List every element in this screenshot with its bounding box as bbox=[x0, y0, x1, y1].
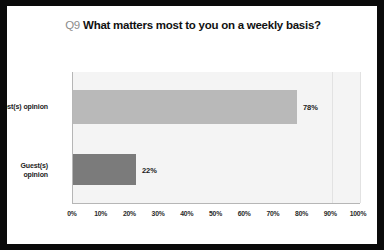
x-tick-80: 80% bbox=[295, 210, 308, 217]
bar-chart: 78% Host(s) opinion 22% Guest(s) opinion… bbox=[7, 64, 377, 244]
x-tick-90: 90% bbox=[324, 210, 337, 217]
question-text: What matters most to you on a weekly bas… bbox=[83, 19, 321, 31]
category-label-guest-opinion: Guest(s) opinion bbox=[7, 162, 48, 179]
x-axis: 0% 10% 20% 30% 40% 50% 60% 70% 80% 90% 1… bbox=[72, 210, 360, 224]
category-label-host-opinion: Host(s) opinion bbox=[7, 103, 48, 112]
gridline-100 bbox=[360, 72, 361, 203]
chart-title: Q9 What matters most to you on a weekly … bbox=[37, 17, 349, 32]
x-tick-60: 60% bbox=[238, 210, 251, 217]
question-number: Q9 bbox=[65, 19, 80, 31]
bar-guest-opinion bbox=[73, 154, 136, 185]
x-tick-20: 20% bbox=[123, 210, 136, 217]
bar-value-host-opinion: 78% bbox=[303, 103, 318, 112]
category-label-host-opinion-line1: Host(s) opinion bbox=[7, 103, 48, 110]
x-tick-100: 100% bbox=[350, 210, 367, 217]
x-tick-30: 30% bbox=[152, 210, 165, 217]
x-tick-10: 10% bbox=[94, 210, 107, 217]
x-tick-0: 0% bbox=[67, 210, 76, 217]
bar-value-guest-opinion: 22% bbox=[142, 166, 157, 175]
slide-canvas: Q9 What matters most to you on a weekly … bbox=[7, 6, 377, 244]
x-tick-40: 40% bbox=[180, 210, 193, 217]
category-label-guest-opinion-line2: opinion bbox=[7, 171, 48, 180]
gridline-90 bbox=[332, 72, 333, 203]
x-tick-70: 70% bbox=[266, 210, 279, 217]
x-tick-50: 50% bbox=[209, 210, 222, 217]
category-label-guest-opinion-line1: Guest(s) bbox=[7, 162, 48, 171]
bar-host-opinion bbox=[73, 90, 297, 124]
slide-frame: Q9 What matters most to you on a weekly … bbox=[0, 0, 384, 250]
plot-area: 78% Host(s) opinion 22% Guest(s) opinion bbox=[72, 72, 360, 204]
